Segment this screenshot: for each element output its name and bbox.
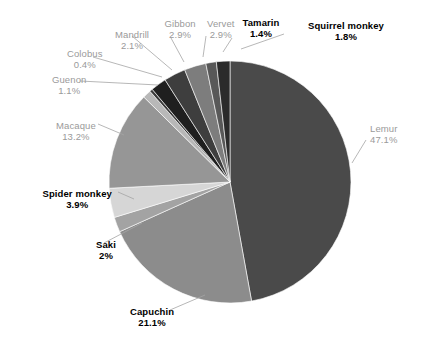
pie-label-lemur: Lemur47.1% xyxy=(370,123,397,145)
leader-line-macaque xyxy=(98,124,124,135)
pie-label-vervet: Vervet2.9% xyxy=(207,18,235,40)
pie-label-percent-lemur: 47.1% xyxy=(370,134,397,145)
pie-label-name-lemur: Lemur xyxy=(370,123,397,134)
leader-line-lemur xyxy=(352,140,366,163)
pie-label-macaque: Macaque13.2% xyxy=(56,120,96,142)
pie-label-gibbon: Gibbon2.9% xyxy=(165,18,196,40)
pie-label-squirrel-monkey: Squirrel monkey1.8% xyxy=(308,20,384,42)
pie-label-percent-tamarin: 1.4% xyxy=(243,28,280,39)
pie-label-name-colobus: Colobus xyxy=(67,48,103,59)
pie-label-name-mandrill: Mandrill xyxy=(115,29,149,40)
pie-label-percent-squirrel-monkey: 1.8% xyxy=(308,31,384,42)
pie-slice-lemur[interactable] xyxy=(230,61,351,301)
pie-label-tamarin: Tamarin1.4% xyxy=(243,17,280,39)
pie-chart-canvas xyxy=(0,0,428,347)
pie-label-name-vervet: Vervet xyxy=(207,18,235,29)
pie-label-name-macaque: Macaque xyxy=(56,120,96,131)
pie-label-spider-monkey: Spider monkey3.9% xyxy=(43,188,112,210)
pie-label-percent-macaque: 13.2% xyxy=(56,131,96,142)
pie-label-name-gibbon: Gibbon xyxy=(165,18,196,29)
pie-label-name-saki: Saki xyxy=(96,239,116,250)
leader-line-capuchin xyxy=(170,295,205,310)
pie-label-percent-mandrill: 2.1% xyxy=(115,40,149,51)
pie-label-percent-saki: 2% xyxy=(96,250,116,261)
pie-label-capuchin: Capuchin21.1% xyxy=(130,306,174,328)
pie-chart-figure: Lemur47.1%Capuchin21.1%Saki2%Spider monk… xyxy=(0,0,428,347)
leader-line-vervet xyxy=(203,36,206,57)
leader-line-guenon xyxy=(80,81,158,85)
pie-label-percent-guenon: 1.1% xyxy=(52,85,86,96)
leader-line-gibbon xyxy=(171,38,184,62)
pie-label-percent-capuchin: 21.1% xyxy=(130,317,174,328)
pie-label-saki: Saki2% xyxy=(96,239,116,261)
pie-label-name-guenon: Guenon xyxy=(52,74,86,85)
pie-label-name-squirrel-monkey: Squirrel monkey xyxy=(308,20,384,31)
pie-label-percent-gibbon: 2.9% xyxy=(165,29,196,40)
pie-label-percent-colobus: 0.4% xyxy=(67,59,103,70)
pie-label-percent-spider-monkey: 3.9% xyxy=(43,199,112,210)
pie-label-guenon: Guenon1.1% xyxy=(52,74,86,96)
pie-label-colobus: Colobus0.4% xyxy=(67,48,103,70)
pie-label-name-tamarin: Tamarin xyxy=(243,17,280,28)
pie-slice-group xyxy=(109,61,351,303)
leader-line-colobus xyxy=(93,57,162,77)
pie-label-name-capuchin: Capuchin xyxy=(130,306,174,317)
pie-label-percent-vervet: 2.9% xyxy=(207,29,235,40)
pie-label-name-spider-monkey: Spider monkey xyxy=(43,188,112,199)
pie-label-mandrill: Mandrill2.1% xyxy=(115,29,149,51)
